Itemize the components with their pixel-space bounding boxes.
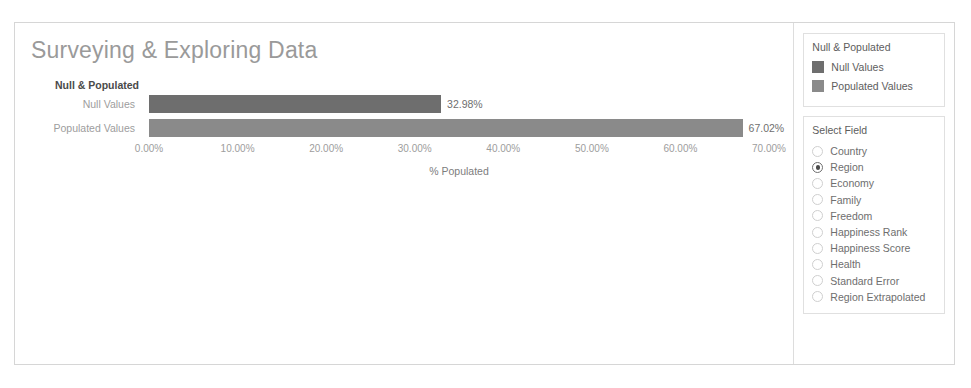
bar-row-label: Null Values [15,95,135,113]
legend-items: Null ValuesPopulated Values [812,60,936,93]
radio-option-label: Region Extrapolated [830,291,925,303]
page-title: Surveying & Exploring Data [31,37,317,64]
bar-fill[interactable] [149,119,743,137]
radio-option-label: Country [830,145,867,157]
radio-unselected-icon[interactable] [812,259,823,270]
legend-title: Null & Populated [812,41,936,53]
radio-option-economy[interactable]: Economy [812,175,936,191]
legend-swatch-icon [812,80,824,92]
chart-worksheet: Surveying & Exploring Data Null & Popula… [15,23,794,364]
x-axis-tick: 70.00% [752,143,786,154]
radio-option-label: Economy [830,177,874,189]
x-axis-tick: 10.00% [221,143,255,154]
radio-option-label: Health [830,258,860,270]
radio-option-label: Happiness Score [830,242,910,254]
radio-option-region-extrapolated[interactable]: Region Extrapolated [812,289,936,305]
radio-option-country[interactable]: Country [812,143,936,159]
right-panel: Null & Populated Null ValuesPopulated Va… [794,23,954,364]
bar-value-label: 32.98% [441,95,483,113]
bar-track: 67.02% [149,119,769,137]
radio-option-happiness-rank[interactable]: Happiness Rank [812,224,936,240]
bar-row[interactable]: Populated Values 67.02% [15,119,796,137]
radio-option-happiness-score[interactable]: Happiness Score [812,240,936,256]
legend-item[interactable]: Null Values [812,60,936,74]
radio-unselected-icon[interactable] [812,227,823,238]
x-axis-tick: 20.00% [309,143,343,154]
radio-unselected-icon[interactable] [812,243,823,254]
radio-option-family[interactable]: Family [812,192,936,208]
radio-option-label: Standard Error [830,275,899,287]
bar-row[interactable]: Null Values 32.98% [15,95,796,113]
radio-unselected-icon[interactable] [812,210,823,221]
legend-item-label: Populated Values [831,80,913,92]
x-axis-tick: 30.00% [398,143,432,154]
x-axis-title: % Populated [149,165,769,177]
bar-row-label: Populated Values [15,119,135,137]
chart-heading: Null & Populated [55,79,139,91]
radio-unselected-icon[interactable] [812,178,823,189]
radio-option-label: Region [830,161,863,173]
select-field-title: Select Field [812,124,936,136]
legend-swatch-icon [812,61,824,73]
bar-value-label: 67.02% [743,119,785,137]
select-field-card: Select Field CountryRegionEconomyFamilyF… [803,116,945,314]
x-axis-tick: 50.00% [575,143,609,154]
x-axis-tick: 40.00% [486,143,520,154]
legend-item[interactable]: Populated Values [812,79,936,93]
radio-option-label: Freedom [830,210,872,222]
x-axis-tick: 60.00% [663,143,697,154]
radio-unselected-icon[interactable] [812,146,823,157]
x-axis-tick: 0.00% [135,143,163,154]
radio-option-label: Family [830,194,861,206]
radio-selected-icon[interactable] [812,162,823,173]
legend-item-label: Null Values [831,61,883,73]
radio-option-health[interactable]: Health [812,256,936,272]
radio-option-freedom[interactable]: Freedom [812,208,936,224]
bar-fill[interactable] [149,95,441,113]
radio-unselected-icon[interactable] [812,291,823,302]
legend-card: Null & Populated Null ValuesPopulated Va… [803,33,945,107]
radio-option-standard-error[interactable]: Standard Error [812,273,936,289]
radio-unselected-icon[interactable] [812,275,823,286]
radio-unselected-icon[interactable] [812,194,823,205]
select-field-radio-group[interactable]: CountryRegionEconomyFamilyFreedomHappine… [812,143,936,305]
radio-option-label: Happiness Rank [830,226,907,238]
x-axis: 0.00%10.00%20.00%30.00%40.00%50.00%60.00… [149,143,769,159]
radio-option-region[interactable]: Region [812,159,936,175]
bar-track: 32.98% [149,95,769,113]
dashboard-frame: Surveying & Exploring Data Null & Popula… [14,22,955,365]
